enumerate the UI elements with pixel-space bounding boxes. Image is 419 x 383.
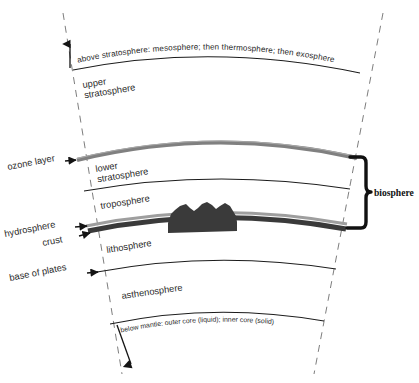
ozone-layer-pointer [65, 160, 76, 161]
left-radial-dashed-line [63, 13, 122, 374]
ozone-layer-band [77, 142, 357, 160]
right-radial-dashed-line [314, 13, 383, 374]
arc-top-of-troposphere [84, 179, 350, 191]
mountain-relief [168, 202, 237, 233]
base-of-plates-pointer [87, 272, 98, 273]
label-troposphere: troposphere [100, 193, 151, 211]
hydrosphere-pointer [75, 226, 87, 227]
side-labels: ozone layer hydrosphere crust base of pl… [3, 153, 67, 283]
biosphere-bracket [347, 157, 371, 228]
label-crust: crust [41, 234, 63, 248]
arc-base-of-plates [97, 260, 336, 272]
layer-arcs [73, 57, 360, 324]
earth-cross-section-svg: above stratosphere: mesosphere; then the… [0, 0, 419, 383]
above-stratosphere-annotation: above stratosphere: mesosphere; then the… [76, 42, 335, 64]
label-ozone-layer: ozone layer [6, 153, 55, 172]
earth-layers-diagram: above stratosphere: mesosphere; then the… [0, 0, 419, 383]
label-asthenosphere: asthenosphere [121, 283, 183, 301]
label-lithosphere: lithosphere [106, 238, 152, 255]
label-base-of-plates: base of plates [8, 262, 67, 283]
side-pointer-arrows [65, 160, 98, 273]
crust-pointer [79, 233, 90, 236]
label-biosphere: biosphere [374, 187, 415, 198]
